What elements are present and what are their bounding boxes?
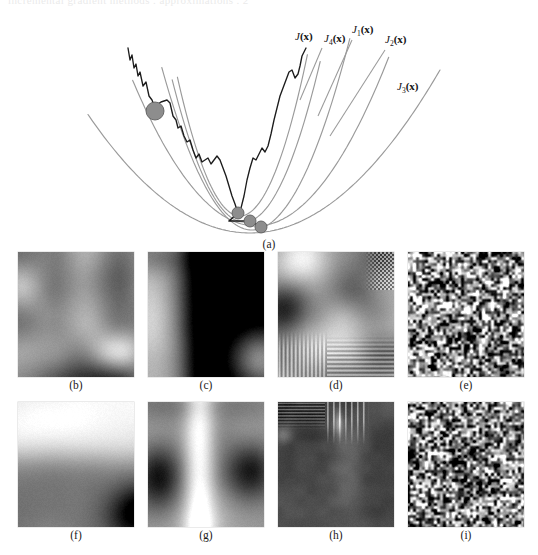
leader-line-J1: [318, 40, 352, 116]
image-thumb-c: [148, 252, 264, 377]
panel-i-caption: (i): [408, 529, 524, 541]
panel-f-caption: (f): [18, 529, 134, 541]
image-thumb-i: [408, 402, 524, 527]
iterate-ball-3: [244, 215, 256, 227]
curve-label-J4: J4(x): [324, 32, 346, 47]
image-thumb-e: [408, 252, 524, 377]
image-thumb-f: [18, 402, 134, 527]
panel-a-cost-function-diagram: J(x)J4(x)J1(x)J2(x)J3(x) (a): [0, 8, 538, 253]
image-panel-g: (g): [148, 402, 264, 527]
curve-labels-group: J(x)J4(x)J1(x)J2(x)J3(x): [295, 23, 419, 95]
image-panel-e: (e): [408, 252, 524, 377]
iterate-ball-1: [146, 102, 164, 120]
thumb-canvas-e: [408, 252, 524, 377]
curve-label-J2: J2(x): [385, 33, 407, 48]
panel-c-caption: (c): [148, 379, 264, 391]
image-panel-f: (f): [18, 402, 134, 527]
label-leader-lines: [300, 40, 385, 136]
image-thumb-b: [18, 252, 134, 377]
cost-function-svg: J(x)J4(x)J1(x)J2(x)J3(x): [0, 8, 538, 253]
thumb-canvas-g: [148, 402, 264, 527]
curve-label-J3: J3(x): [397, 80, 419, 95]
image-panel-c: (c): [148, 252, 264, 377]
image-panel-b: (b): [18, 252, 134, 377]
curve-label-J: J(x): [295, 30, 313, 43]
thumb-canvas-h: [278, 402, 394, 527]
thumb-canvas-d: [278, 252, 394, 377]
curve-label-J1: J1(x): [352, 23, 374, 38]
thumb-canvas-b: [18, 252, 134, 377]
image-thumb-g: [148, 402, 264, 527]
approximation-curves-group: [88, 39, 440, 233]
image-panel-h: (h): [278, 402, 394, 527]
image-panel-d: (d): [278, 252, 394, 377]
image-panel-i: (i): [408, 402, 524, 527]
panel-d-caption: (d): [278, 379, 394, 391]
panel-g-caption: (g): [148, 529, 264, 541]
approx-curve-J1(x): [162, 39, 350, 230]
panel-h-caption: (h): [278, 529, 394, 541]
thumb-canvas-f: [18, 402, 134, 527]
figure-root: incremental gradient methods . approxima…: [0, 0, 538, 555]
iterate-ball-2: [232, 207, 244, 219]
thumb-canvas-c: [148, 252, 264, 377]
panel-b-caption: (b): [18, 379, 134, 391]
panel-e-caption: (e): [408, 379, 524, 391]
image-thumb-h: [278, 402, 394, 527]
image-panel-grid: (b) (c) (d) (e) (f): [0, 252, 538, 552]
thumb-canvas-i: [408, 402, 524, 527]
iterate-ball-4: [255, 221, 267, 233]
panel-a-caption: (a): [0, 238, 538, 250]
leader-line-J2: [330, 50, 385, 136]
image-thumb-d: [278, 252, 394, 377]
